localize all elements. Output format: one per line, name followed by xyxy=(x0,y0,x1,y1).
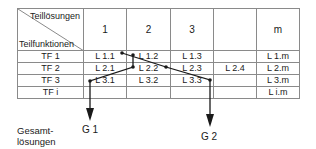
arrow-down-icon xyxy=(206,114,214,127)
result-g1: G 1 xyxy=(82,124,98,135)
result-g2: G 2 xyxy=(201,131,217,142)
arrow-down-icon xyxy=(86,108,94,121)
gesamtloesungen-label: Gesamt- lösungen xyxy=(17,125,56,147)
gesamt-line2: lösungen xyxy=(17,136,56,147)
path-g2 xyxy=(120,51,214,127)
path-g1 xyxy=(86,53,135,121)
gesamt-line1: Gesamt- xyxy=(17,125,56,136)
